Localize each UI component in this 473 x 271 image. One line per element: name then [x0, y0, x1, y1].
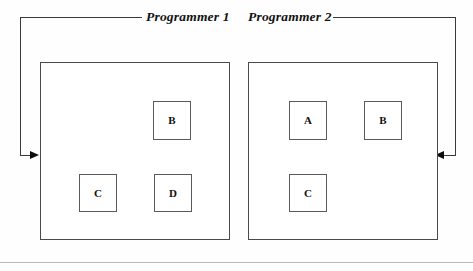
right-connector-bottom-stub: [444, 155, 456, 156]
module-label-c-2: C: [304, 188, 312, 199]
programmer-module-diagram: Programmer 1 Programmer 2 B C D A B C: [0, 0, 473, 271]
left-connector-vertical-line: [20, 17, 21, 155]
module-box-a-2: A: [289, 101, 327, 140]
right-connector-top-line: [333, 17, 455, 18]
left-connector-top-line: [20, 17, 142, 18]
module-label-a-2: A: [304, 115, 312, 126]
module-box-c: C: [79, 174, 117, 212]
module-label-b: B: [168, 115, 175, 126]
page-bottom-rule: [0, 262, 473, 263]
module-box-b-2: B: [364, 101, 402, 140]
flow-label-programmer-2: Programmer 2: [248, 10, 332, 24]
left-connector-arrowhead-icon: [30, 151, 39, 159]
module-box-c-2: C: [289, 174, 327, 212]
flow-label-programmer-1: Programmer 1: [146, 10, 230, 24]
module-label-c: C: [94, 188, 102, 199]
module-box-b: B: [153, 101, 191, 140]
panel-programmer-2: A B C: [248, 62, 438, 240]
right-connector-vertical-line: [455, 17, 456, 155]
module-label-d: D: [169, 188, 177, 199]
module-label-b-2: B: [379, 115, 386, 126]
module-box-d: D: [154, 174, 192, 212]
panel-programmer-1: B C D: [40, 62, 230, 240]
